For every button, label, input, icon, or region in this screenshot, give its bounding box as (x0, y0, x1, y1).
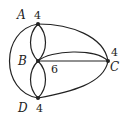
graph-diagram: A 4 B 6 4 C D 4 (0, 0, 124, 122)
edge-b-d-right (38, 61, 46, 98)
edge-b-d-left (31, 61, 39, 98)
node-b (36, 59, 40, 63)
node-d-degree: 4 (36, 102, 43, 115)
node-a-label: A (16, 8, 26, 22)
edge-d-c (38, 61, 108, 98)
node-c-label: C (110, 60, 119, 74)
node-d (36, 96, 40, 100)
edge-a-b-right (38, 24, 46, 61)
node-a (36, 22, 40, 26)
edge-a-b-left (31, 24, 39, 61)
node-b-label: B (17, 54, 27, 68)
node-b-degree: 6 (51, 63, 58, 76)
node-c-degree: 4 (111, 46, 118, 59)
edge-b-c-curved (38, 52, 108, 61)
node-d-label: D (17, 101, 28, 115)
node-a-degree: 4 (34, 9, 41, 22)
